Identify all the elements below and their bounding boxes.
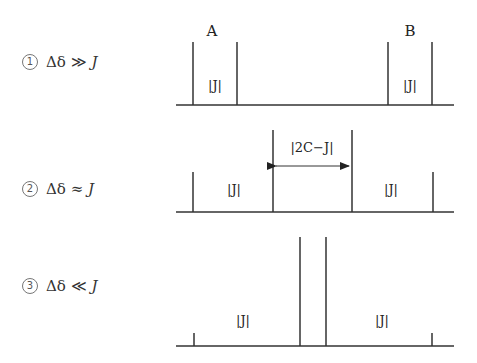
coupling-label: |J| [403,78,417,93]
coupling-label: |J| [236,313,250,328]
coupling-label: |J| [208,78,222,93]
coupling-label: |J| [384,182,398,197]
coupling-label: |J| [227,182,241,197]
nmr-spectra-diagram: A B |J| |J| |J| |J| |2C−J| |J| |J| [0,0,477,363]
coupling-label: |J| [375,313,389,328]
label-B: B [404,22,415,40]
arrow-label: |2C−J| [290,140,333,155]
label-A: A [206,22,218,40]
